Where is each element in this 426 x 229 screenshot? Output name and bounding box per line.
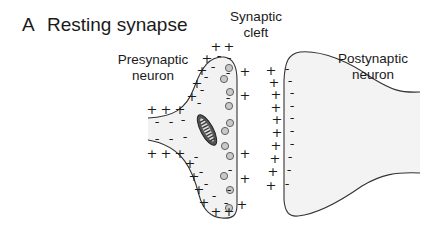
positive-charge: +	[161, 146, 172, 161]
negative-charge: -	[169, 114, 174, 129]
negative-charge: -	[226, 90, 231, 105]
negative-charge: -	[285, 176, 290, 191]
negative-charge: -	[197, 95, 202, 110]
negative-charge: -	[227, 182, 232, 197]
negative-charge: -	[194, 149, 199, 164]
positive-charge: +	[237, 197, 248, 212]
negative-charge: -	[155, 114, 160, 129]
negative-charge: -	[155, 131, 160, 146]
negative-charge: -	[204, 176, 209, 191]
synaptic-vesicle	[220, 172, 227, 179]
synaptic-vesicle	[226, 152, 233, 159]
positive-charge: +	[199, 195, 210, 210]
positive-charge: +	[147, 146, 158, 161]
negative-charge: -	[227, 50, 232, 65]
positive-charge: +	[240, 88, 251, 103]
synaptic-vesicle	[221, 127, 228, 134]
cleft-label-line1: Synaptic	[228, 9, 284, 25]
synaptic-cleft-label: Synaptic cleft	[228, 9, 284, 41]
negative-charge: -	[211, 59, 216, 74]
positive-charge: +	[268, 164, 279, 179]
postsynaptic-label-line2: neuron	[336, 67, 410, 83]
negative-charge: -	[204, 69, 209, 84]
negative-charge: -	[212, 188, 217, 203]
postsynaptic-neuron-label: Postynaptic neuron	[336, 51, 410, 83]
figure-title: Resting synapse	[47, 14, 187, 36]
cleft-label-line2: cleft	[228, 25, 284, 41]
positive-charge: +	[211, 204, 222, 219]
negative-charge: -	[169, 131, 174, 146]
presynaptic-label-line2: neuron	[117, 68, 189, 84]
negative-charge: -	[217, 48, 222, 63]
synaptic-vesicle	[221, 142, 228, 149]
postsynaptic-label-line1: Postynaptic	[336, 51, 410, 67]
negative-charge: -	[287, 162, 292, 177]
negative-charge: -	[181, 112, 186, 127]
negative-charge: -	[224, 195, 229, 210]
negative-charge: -	[183, 129, 188, 144]
negative-charge: -	[228, 162, 233, 177]
positive-charge: +	[266, 178, 277, 193]
presynaptic-neuron-label: Presynaptic neuron	[117, 52, 189, 84]
positive-charge: +	[240, 171, 251, 186]
panel-letter: A	[22, 14, 35, 36]
positive-charge: +	[240, 146, 251, 161]
presynaptic-label-line1: Presynaptic	[117, 52, 189, 68]
negative-charge: -	[226, 65, 231, 80]
positive-charge: +	[240, 64, 251, 79]
synaptic-vesicle	[226, 119, 233, 126]
